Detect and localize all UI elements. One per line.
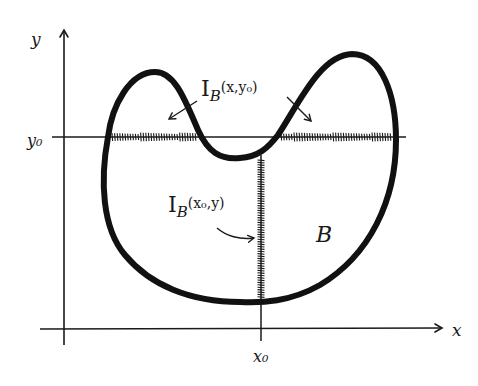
vertical-section-annotation: IB(x₀,y) [168,192,254,239]
x-axis-label: x [452,320,462,340]
region-b-label: B [315,222,332,247]
horizontal-section-args: (x,y₀) [221,79,258,95]
x-axis [40,328,442,329]
vertical-section-args: (x₀,y) [188,195,225,211]
vertical-section-subscript: B [176,203,188,221]
horizontal-section-prefix: I [201,76,210,101]
arrow-to-vertical-section-icon [217,228,254,239]
x0-label: x₀ [253,347,269,366]
vertical-section-prefix: I [168,192,177,217]
vertical-section-label: IB(x₀,y) [168,192,225,221]
y0-label: y₀ [26,131,43,150]
y-axis-label: y [30,29,41,49]
horizontal-section-subscript: B [209,87,221,105]
horizontal-section-label: IB(x,y₀) [201,76,258,105]
section-diagram: y x y₀ x₀ IB(x,y₀) IB(x₀,y) [0,0,478,386]
